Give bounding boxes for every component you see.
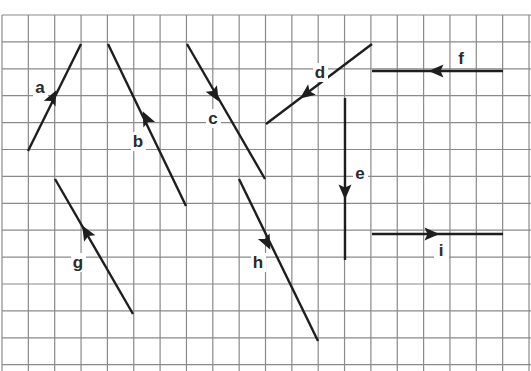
vector-label: a [35, 78, 45, 97]
vector-label: e [355, 164, 364, 183]
vector-label: g [73, 253, 83, 272]
vector-label: f [458, 49, 464, 68]
vector-label: h [253, 253, 263, 272]
vector-grid-diagram: abcdefghi [0, 0, 531, 371]
vector-label: i [439, 241, 444, 260]
vector-label: d [315, 63, 325, 82]
vector-label: b [133, 132, 143, 151]
vector-label: c [208, 109, 217, 128]
